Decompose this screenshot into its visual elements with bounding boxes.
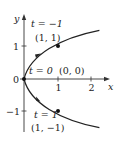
annotation-t-minus1: t = −1 [31,18,63,29]
y-tick-label-0: 0 [13,74,19,85]
y-tick-label-minus1: −1 [6,106,20,117]
annotation-point-1-minus1: (1, −1) [31,122,65,133]
point-1-1 [56,44,60,48]
y-axis-label: y [13,13,20,24]
y-tick-label-1: 1 [13,41,19,52]
x-tick-label-2: 2 [89,82,95,93]
annotation-point-0-0: (0, 0) [59,65,85,76]
x-tick-label-1: 1 [56,82,62,93]
parametric-plot: y x 1 2 1 0 −1 t = −1 (1, 1) t = 0 (0, 0… [0,0,119,145]
y-axis-arrow-icon [22,14,26,20]
annotation-point-1-1: (1, 1) [35,32,61,43]
x-axis-label: x [108,81,114,92]
direction-arrow-bottom-icon [36,97,41,102]
annotation-t-0: t = 0 [29,65,53,76]
point-origin [22,77,26,81]
annotation-t-1: t = 1 [34,109,58,120]
